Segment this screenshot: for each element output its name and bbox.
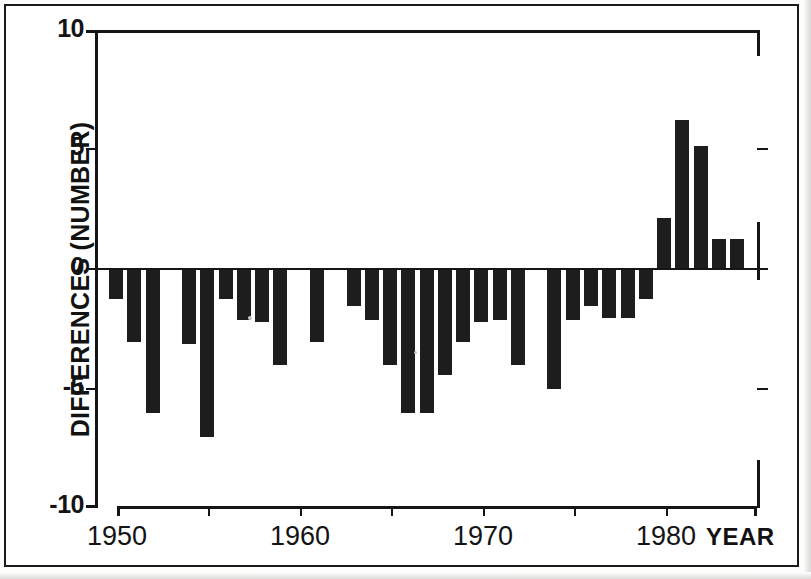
bar-1978 [621, 270, 635, 318]
bar-1970 [474, 270, 488, 322]
bar-1981 [675, 120, 689, 268]
bar-1961 [310, 270, 324, 342]
x-axis-title: YEAR [706, 523, 775, 551]
page-edge-shadow-right [803, 0, 811, 579]
bar-1982 [694, 146, 708, 268]
x-axis-line [117, 506, 757, 509]
x-tick-label-1980: 1980 [636, 521, 696, 552]
bar-1979 [639, 270, 653, 299]
y-tick-neg10 [86, 506, 96, 508]
x-tick-1975 [574, 506, 576, 516]
bar-1977 [602, 270, 616, 318]
bar-1955 [200, 270, 214, 437]
scan-speck [248, 316, 252, 320]
y-tick-label-5: 5 [14, 132, 84, 161]
bar-1975 [566, 270, 580, 320]
bar-1984 [730, 239, 744, 268]
y-tick-label-neg10: -10 [14, 490, 84, 519]
y-tick-5 [86, 148, 96, 150]
bar-1967 [420, 270, 434, 413]
plot-right-border-mid [757, 222, 760, 280]
bar-1952 [146, 270, 160, 413]
y-tick-label-10: 10 [14, 14, 84, 43]
bar-1954 [182, 270, 196, 344]
x-tick-label-1960: 1960 [270, 521, 330, 552]
y-tick-label-0: 0 [14, 252, 84, 281]
x-tick-1970 [483, 506, 485, 516]
bar-1958 [255, 270, 269, 322]
chart-page: DIFFERENCES (NUMBER) 10 5 0 -5 -10 [0, 0, 811, 579]
y-tick-neg5 [86, 388, 96, 390]
x-tick-label-1970: 1970 [453, 521, 513, 552]
bar-1956 [219, 270, 233, 299]
right-tick-neg5 [757, 388, 768, 390]
plot-right-border-top [757, 30, 760, 56]
bar-1971 [493, 270, 507, 320]
bar-1980 [657, 218, 671, 268]
bar-1957 [237, 270, 251, 320]
x-tick-1965 [391, 506, 393, 516]
bar-1972 [511, 270, 525, 365]
plot-top-border [96, 30, 760, 33]
y-tick-10 [86, 30, 96, 32]
bar-1983 [712, 239, 726, 268]
x-tick-label-1950: 1950 [87, 521, 147, 552]
bar-1964 [365, 270, 379, 320]
bar-1963 [347, 270, 361, 306]
page-edge-shadow-bottom [0, 572, 811, 579]
plot-right-border-bottom [757, 460, 760, 508]
bar-1968 [438, 270, 452, 375]
right-tick-5 [757, 148, 768, 150]
x-tick-1950 [117, 506, 119, 516]
x-axis-end-cap-right [754, 506, 757, 516]
bar-1974 [547, 270, 561, 389]
bar-1976 [584, 270, 598, 306]
bar-1951 [127, 270, 141, 342]
bar-1950 [109, 270, 123, 299]
x-tick-1955 [208, 506, 210, 516]
y-tick-label-neg5: -5 [14, 372, 84, 401]
bar-1966 [401, 270, 415, 413]
bar-1969 [456, 270, 470, 342]
scan-speck [414, 351, 417, 354]
plot-area: DIFFERENCES (NUMBER) 10 5 0 -5 -10 [0, 0, 811, 579]
bar-1959 [273, 270, 287, 365]
y-tick-0 [86, 268, 96, 270]
x-tick-1960 [300, 506, 302, 516]
x-tick-1980 [666, 506, 668, 516]
bar-1965 [383, 270, 397, 365]
